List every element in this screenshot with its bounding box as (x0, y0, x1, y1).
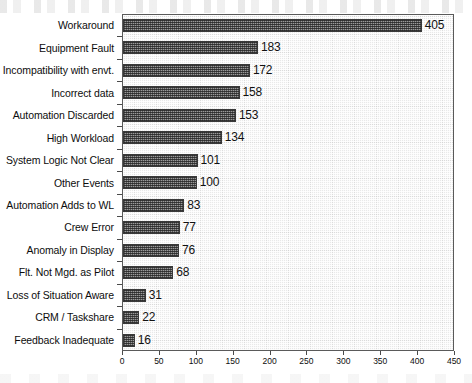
bar-row: 83 (123, 195, 453, 217)
x-axis-tick (233, 351, 234, 355)
bar-row: 76 (123, 240, 453, 262)
x-axis-tick-label: 350 (373, 356, 387, 366)
bar-value-label: 77 (183, 218, 196, 236)
x-axis-tick-label: 0 (120, 356, 125, 366)
bar-value-label: 405 (425, 16, 444, 34)
bar-value-label: 153 (239, 106, 258, 124)
bar (123, 176, 197, 189)
bar (123, 86, 240, 99)
bar-row: 183 (123, 37, 453, 59)
bar-value-label: 16 (138, 331, 151, 349)
bar (123, 199, 184, 212)
bar (123, 311, 139, 324)
bar-row: 22 (123, 307, 453, 329)
x-axis-tick-label: 300 (336, 356, 350, 366)
bar-row: 134 (123, 127, 453, 149)
bar-row: 101 (123, 150, 453, 172)
x-axis-tick-label: 150 (226, 356, 240, 366)
bar-row: 100 (123, 172, 453, 194)
bar-value-label: 83 (187, 196, 200, 214)
x-axis-tick (380, 351, 381, 355)
bar-row: 158 (123, 82, 453, 104)
bar (123, 154, 198, 167)
bar-value-label: 31 (149, 286, 162, 304)
x-axis-tick (454, 351, 455, 355)
bar-row: 68 (123, 262, 453, 284)
x-axis-tick-label: 450 (447, 356, 461, 366)
bar-value-label: 172 (253, 61, 272, 79)
bar (123, 131, 222, 144)
x-axis-tick-label: 100 (189, 356, 203, 366)
bar-value-label: 183 (261, 38, 280, 56)
bar (123, 266, 173, 279)
bar-row: 405 (123, 15, 453, 37)
x-axis-tick (270, 351, 271, 355)
bar-row: 172 (123, 60, 453, 82)
bar-value-label: 100 (200, 173, 219, 191)
x-axis-tick-label: 50 (154, 356, 163, 366)
x-axis-tick (159, 351, 160, 355)
bar (123, 41, 258, 54)
horizontal-bar-chart: WorkaroundEquipment FaultIncompatibility… (0, 0, 472, 383)
bar-value-label: 158 (243, 83, 262, 101)
x-axis-tick-label: 250 (299, 356, 313, 366)
plot-area: 40518317215815313410110083777668312216 (122, 14, 454, 351)
x-axis-tick-labels: 050100150200250300350400450 (122, 356, 454, 370)
x-axis-tick (417, 351, 418, 355)
x-axis-tick (343, 351, 344, 355)
bar (123, 64, 250, 77)
bar (123, 19, 422, 32)
bar-row: 16 (123, 330, 453, 352)
bar (123, 244, 179, 257)
bar-value-label: 76 (182, 241, 195, 259)
bar-value-label: 134 (225, 128, 244, 146)
bar-value-label: 22 (142, 308, 155, 326)
bar-value-label: 101 (201, 151, 220, 169)
bar (123, 221, 180, 234)
bar (123, 109, 236, 122)
bar (123, 334, 135, 347)
bar-value-label: 68 (176, 263, 189, 281)
x-axis-tick (196, 351, 197, 355)
y-axis-ticks (0, 14, 122, 351)
bar-row: 77 (123, 217, 453, 239)
x-axis-tick (306, 351, 307, 355)
bar-row: 31 (123, 285, 453, 307)
bar (123, 289, 146, 302)
x-axis-tick-label: 400 (410, 356, 424, 366)
bar-row: 153 (123, 105, 453, 127)
x-axis-tick-label: 200 (262, 356, 276, 366)
x-axis-tick (122, 351, 123, 355)
